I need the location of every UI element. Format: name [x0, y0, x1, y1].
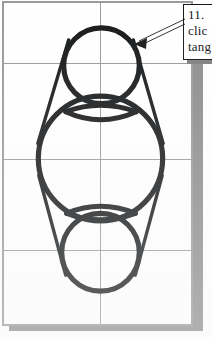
instruction-callout[interactable]: 11. clic tang — [183, 4, 212, 60]
callout-line-1: 11. — [188, 7, 212, 23]
drawing-canvas[interactable] — [3, 2, 192, 325]
callout-line-3: tang — [188, 39, 212, 55]
drawing-sheet[interactable] — [2, 1, 193, 326]
callout-drop-shadow — [187, 60, 212, 64]
callout-line-2: clic — [188, 23, 212, 39]
screenshot-root: 11. clic tang — [0, 0, 212, 337]
